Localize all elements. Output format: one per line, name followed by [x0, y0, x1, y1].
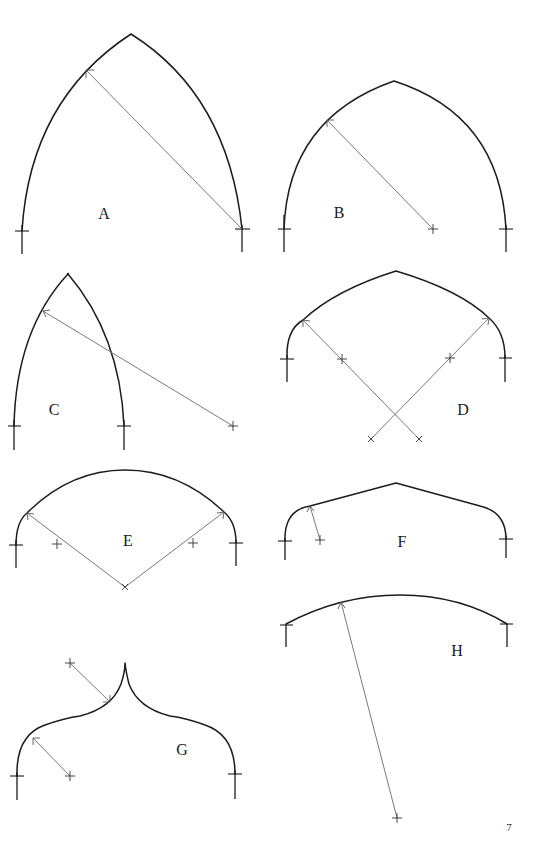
arch-e-right-center-mark-icon — [188, 538, 198, 548]
figure-label-h: H — [451, 643, 463, 659]
figure-g — [10, 658, 242, 800]
arch-f-center-mark-icon — [315, 535, 325, 545]
figure-h — [280, 595, 513, 823]
arch-e-right-radius-line — [125, 512, 224, 587]
arch-a-curve — [22, 34, 242, 231]
arch-e-left-radius-line — [27, 513, 125, 587]
page-number: 7 — [506, 821, 512, 833]
figure-e — [9, 470, 243, 590]
figure-d — [280, 271, 512, 442]
figure-b — [278, 81, 513, 252]
figure-f — [278, 483, 513, 560]
arch-b-curve — [284, 81, 506, 229]
figure-c — [8, 273, 238, 450]
arch-d-lower-left-cross-icon — [368, 436, 374, 442]
arch-c-apex-dot — [67, 273, 69, 275]
figure-label-a: A — [98, 206, 110, 222]
arch-g-curve — [17, 663, 235, 776]
arch-h-curve — [286, 595, 507, 624]
arch-g-upper-radius-line — [70, 663, 110, 702]
arch-e-bottom-center-cross-icon — [122, 584, 128, 590]
arch-h-radius-line — [341, 602, 397, 818]
arch-d-curve — [287, 271, 505, 358]
arch-f-radius-line — [310, 506, 320, 540]
page: A B C D E F G H 7 — [0, 0, 545, 858]
arch-e-left-center-mark-icon — [52, 539, 62, 549]
arch-h-center-mark-icon — [392, 813, 402, 823]
arch-c-radius-line — [43, 311, 233, 426]
figure-label-b: B — [334, 205, 345, 221]
arch-g-lower-radius-line — [33, 738, 70, 776]
arch-d-lower-right-cross-icon — [416, 436, 422, 442]
arch-d-right-radius-line — [371, 318, 489, 439]
arch-d-left-center-mark-icon — [337, 354, 347, 364]
figure-label-f: F — [398, 534, 407, 550]
arch-d-left-radius-line — [303, 320, 419, 439]
figure-label-c: C — [49, 402, 60, 418]
arch-c-center-mark-icon — [228, 421, 238, 431]
figure-label-g: G — [176, 742, 188, 758]
figure-label-e: E — [123, 533, 133, 549]
arch-diagrams — [0, 0, 545, 858]
figure-a — [15, 34, 250, 254]
figure-label-d: D — [457, 402, 469, 418]
